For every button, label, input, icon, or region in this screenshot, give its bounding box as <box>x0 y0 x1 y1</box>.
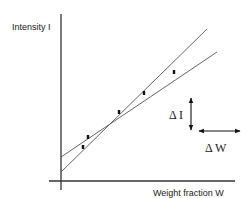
steep-fit-line <box>61 29 207 172</box>
diagram: Intensity I Weight fraction W Δ I Δ W <box>0 0 251 198</box>
delta-i-label: Δ I <box>169 108 183 122</box>
y-axis-label: Intensity I <box>12 22 51 32</box>
fit-lines <box>61 29 217 172</box>
delta-w-label: Δ W <box>205 141 227 155</box>
data-point <box>118 110 120 114</box>
data-points <box>82 70 175 149</box>
data-point <box>87 135 89 139</box>
data-point <box>82 145 84 149</box>
shallow-fit-line <box>61 52 217 157</box>
data-point <box>143 91 145 95</box>
data-point <box>173 70 175 74</box>
x-axis-label: Weight fraction W <box>153 188 224 198</box>
